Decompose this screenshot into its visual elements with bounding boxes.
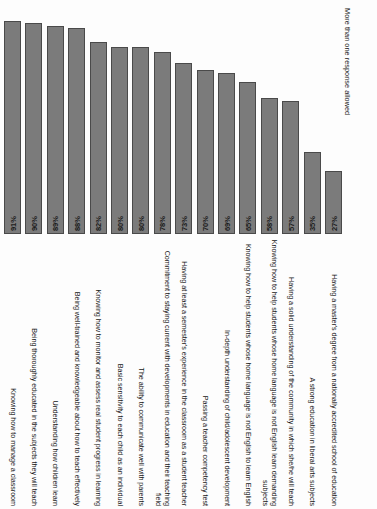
category-label-text: Knowing how to help students whose home … (244, 244, 253, 506)
category-label-text: Basic sensitivity to each child as an in… (115, 364, 124, 506)
category-slot: Having at least a semester's experience … (175, 236, 192, 509)
bar-value-label: 70% (201, 216, 210, 231)
category-slot: Knowing how to monitor and assess real s… (90, 236, 107, 509)
category-label: Understanding how children learn (51, 238, 60, 506)
category-label: Knowing how to manage a classroom (8, 238, 17, 506)
category-slot: Understanding how children learn (47, 236, 64, 509)
category-label: Commitment to staying current with devel… (154, 238, 171, 506)
category-label: The ability to communicate well with par… (137, 238, 146, 506)
bar[interactable] (4, 21, 21, 234)
bar[interactable] (47, 26, 64, 234)
bar-value-label: 69% (222, 216, 231, 231)
bar[interactable] (68, 28, 85, 234)
bar-value-label: 58% (265, 216, 274, 231)
bar-value-label: 89% (51, 216, 60, 231)
category-label-text: Passing a teacher competency test (201, 396, 210, 506)
category-label-text: In-depth understanding of child/adolesce… (222, 330, 231, 506)
category-slot: In-depth understanding of child/adolesce… (218, 236, 235, 509)
bar-value-label: 91% (8, 216, 17, 231)
bar[interactable] (197, 70, 214, 234)
category-label: Passing a teacher competency test (201, 238, 210, 506)
bar[interactable] (111, 47, 128, 234)
bar-value-label: 35% (308, 216, 317, 231)
category-slot: Knowing how to help students whose home … (261, 236, 278, 509)
category-label-text: Commitment to staying current with devel… (154, 238, 171, 506)
bar-value-label: 78% (158, 216, 167, 231)
bar[interactable] (282, 101, 299, 234)
category-label: Having at least a semester's experience … (179, 238, 188, 506)
category-label-text: Understanding how children learn (51, 401, 60, 506)
category-slot: Being well-trained and knowledgeable abo… (68, 236, 85, 509)
bar[interactable] (175, 63, 192, 234)
bar-value-label: 57% (286, 216, 295, 231)
category-label-text: Being well-trained and knowledgeable abo… (72, 292, 81, 506)
category-slot: Basic sensitivity to each child as an in… (111, 236, 128, 509)
bar-value-label: 88% (72, 216, 81, 231)
bar-value-label: 65% (243, 216, 252, 231)
category-label: Knowing how to monitor and assess real s… (94, 238, 103, 506)
category-label-text: Being thoroughly educated in the subject… (30, 328, 39, 506)
bar-value-label: 90% (29, 216, 38, 231)
category-slot: Being thoroughly educated in the subject… (25, 236, 42, 509)
category-label-text: A strong education in liberal arts subje… (308, 378, 317, 507)
bar[interactable] (239, 82, 256, 234)
category-slot: Having a master's degree from a national… (325, 236, 342, 509)
plot-area: 91% 90% 89% 88% 82% 80% 80% 78% (0, 0, 377, 234)
category-label: Being well-trained and knowledgeable abo… (72, 238, 81, 506)
bar[interactable] (132, 47, 149, 234)
category-label: Having a master's degree from a national… (329, 238, 338, 506)
category-slot: Having a solid understanding of the comm… (282, 236, 299, 509)
category-labels-area: Knowing how to manage a classroom Being … (0, 236, 377, 509)
bar-value-label: 82% (94, 216, 103, 231)
category-label: Knowing how to help students whose home … (244, 238, 253, 506)
category-label: Knowing how to help students whose home … (261, 238, 278, 506)
category-label: A strong education in liberal arts subje… (308, 238, 317, 506)
category-label: Having a solid understanding of the comm… (286, 238, 295, 506)
category-slot: A strong education in liberal arts subje… (304, 236, 321, 509)
category-slot: Knowing how to help students whose home … (239, 236, 256, 509)
category-label-text: Knowing how to manage a classroom (8, 388, 17, 506)
chart-footnote: More than one response allowed (343, 8, 352, 115)
category-label-text: Knowing how to monitor and assess real s… (94, 290, 103, 506)
category-label-text: Having a solid understanding of the comm… (286, 277, 295, 506)
bar-chart: 91% 90% 89% 88% 82% 80% 80% 78% (0, 0, 377, 509)
category-slot: The ability to communicate well with par… (132, 236, 149, 509)
bar-value-label: 80% (136, 216, 145, 231)
category-label: In-depth understanding of child/adolesce… (222, 238, 231, 506)
bar[interactable] (218, 73, 235, 235)
bar-value-label: 27% (329, 216, 338, 231)
category-label: Basic sensitivity to each child as an in… (115, 238, 124, 506)
bar[interactable] (261, 98, 278, 234)
category-slot: Commitment to staying current with devel… (154, 236, 171, 509)
category-slot: Knowing how to manage a classroom (4, 236, 21, 509)
bar[interactable] (90, 42, 107, 234)
category-label: Being thoroughly educated in the subject… (30, 238, 39, 506)
category-label-text: Having a master's degree from a national… (329, 274, 338, 506)
category-label-text: The ability to communicate well with par… (137, 368, 146, 506)
bar-value-label: 80% (115, 216, 124, 231)
category-label-text: Having at least a semester's experience … (179, 261, 188, 506)
category-label-text: Knowing how to help students whose home … (261, 238, 278, 506)
bar[interactable] (154, 52, 171, 235)
category-slot: Passing a teacher competency test (197, 236, 214, 509)
bar-value-label: 73% (179, 216, 188, 231)
bar[interactable] (25, 23, 42, 234)
